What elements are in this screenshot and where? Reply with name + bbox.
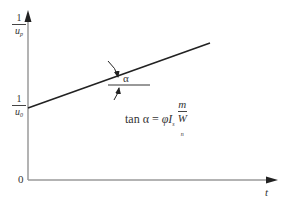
angle-arc-lower xyxy=(114,88,119,100)
y-top-denominator: up xyxy=(12,26,26,39)
x-axis-label: t xyxy=(265,186,268,198)
y-top-den-sub: p xyxy=(20,31,23,37)
y-axis-intercept-label: 1 u0 xyxy=(12,94,26,120)
origin-label: 0 xyxy=(18,173,24,185)
formula-lhs: tan α = xyxy=(125,112,159,127)
angle-arc-upper xyxy=(108,61,118,77)
y-top-numerator: 1 xyxy=(12,13,26,23)
x-axis-arrow-icon xyxy=(266,177,278,184)
formula-frac-num: m xyxy=(178,99,187,110)
y-int-numerator: 1 xyxy=(12,94,26,104)
formula-w-letter: W xyxy=(178,113,187,124)
formula-i-sub: s xyxy=(172,121,174,127)
formula-frac-den: Wn xyxy=(178,113,187,140)
y-axis-top-label: 1 up xyxy=(12,13,26,39)
formula-fraction: m Wn xyxy=(178,99,187,140)
slope-formula: tan α = φ Is m Wn xyxy=(125,99,187,140)
angle-label: α xyxy=(123,72,129,84)
formula-current: Is xyxy=(168,112,174,127)
y-int-denominator: u0 xyxy=(12,107,26,120)
y-int-den-sub: 0 xyxy=(20,112,23,118)
formula-w-sub: n xyxy=(181,131,184,137)
